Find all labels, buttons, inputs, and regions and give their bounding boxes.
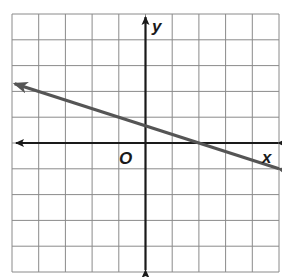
plotted-line	[15, 84, 279, 169]
origin-label: O	[119, 149, 132, 168]
y-axis-label: y	[151, 17, 163, 36]
coordinate-plane: y x O	[0, 0, 282, 277]
x-axis-label: x	[261, 148, 273, 167]
